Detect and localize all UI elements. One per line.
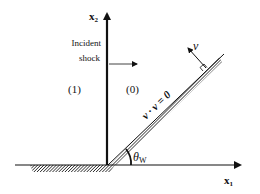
boundary-condition-label: v · ν = 0 — [139, 88, 173, 121]
ground-hatching — [30, 165, 115, 172]
incident-shock-label-line2: shock — [79, 53, 100, 63]
region-0-label: (0) — [126, 83, 139, 96]
diagram-canvas: x2 x1 Incident shock (1) (0) v · ν = 0 ν… — [0, 0, 260, 194]
wedge-angle-label: θW — [133, 150, 147, 165]
x2-axis-label: x2 — [89, 10, 99, 24]
x1-axis-label: x1 — [224, 174, 234, 188]
incident-shock-label-line1: Incident — [72, 38, 102, 48]
wedge-angle-arc — [126, 149, 131, 165]
wedge-surface — [108, 54, 224, 165]
normal-vector-label: ν — [193, 39, 199, 53]
region-1-label: (1) — [68, 83, 81, 96]
